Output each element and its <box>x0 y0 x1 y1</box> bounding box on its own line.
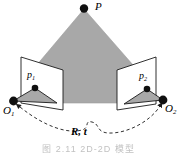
label-right-center-subscript: 2 <box>173 108 176 115</box>
point-p2-dot <box>144 86 151 93</box>
label-right-projection-subscript: 2 <box>144 75 147 82</box>
label-left-camera-center-O1: O1 <box>3 105 14 116</box>
label-right-camera-center-O2: O2 <box>165 103 176 114</box>
figure-container: P p1 p2 O1 O2 R, t 图 2.11 2D-2D 模型 <box>0 0 177 154</box>
label-right-projection-p2: p2 <box>139 71 147 81</box>
label-left-center-base: O <box>3 104 11 116</box>
point-P-dot <box>80 4 88 12</box>
point-p1-dot <box>32 85 39 92</box>
label-transform-rt: R, t <box>71 126 87 137</box>
label-left-center-subscript: 1 <box>11 110 14 117</box>
transform-curve <box>20 106 160 133</box>
label-scene-point-P: P <box>95 1 102 12</box>
figure-caption: 图 2.11 2D-2D 模型 <box>0 142 177 154</box>
label-right-center-base: O <box>165 102 173 114</box>
label-left-projection-p1: p1 <box>27 70 35 80</box>
label-left-projection-subscript: 1 <box>32 74 35 81</box>
